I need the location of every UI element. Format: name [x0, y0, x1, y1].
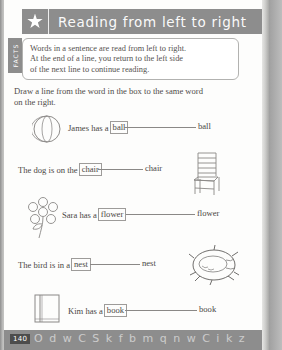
page-edge-outer: [269, 0, 282, 350]
sentence-text: James has a: [68, 123, 109, 133]
fact-line: of the next line to continue reading.: [30, 65, 186, 75]
sentence-text: The bird is in a: [18, 260, 70, 270]
instruction-text: Draw a line from the word in the box to …: [14, 86, 252, 107]
exercise-sentence: Sara has a flower: [62, 208, 127, 221]
exercise-row: James has a ball ball: [0, 112, 258, 150]
exercise-row: The bird is in a nest nest: [0, 244, 258, 288]
chair-illustration: [186, 150, 228, 202]
connector-line[interactable]: [126, 214, 195, 215]
nest-illustration: [188, 244, 240, 290]
exercise-row: Kim has a book book: [0, 292, 258, 332]
target-word[interactable]: nest: [142, 258, 156, 268]
page-footer: 140 O d w C S k f b m q n w C i k z: [4, 330, 262, 350]
sentence-text: Sara has a: [62, 210, 97, 220]
page-header: Reading from left to right: [22, 9, 262, 34]
boxed-word[interactable]: book: [104, 304, 127, 317]
exercise-sentence: The bird is in a nest: [18, 258, 92, 271]
facts-tab-label: FACTS: [12, 39, 19, 73]
target-word[interactable]: book: [199, 304, 216, 314]
target-word[interactable]: ball: [198, 121, 211, 131]
facts-side-tab: FACTS: [8, 38, 22, 73]
target-word[interactable]: flower: [197, 208, 219, 218]
footer-decoration: O d w C S k f b m q n w C i k z: [34, 332, 246, 345]
fact-line: Words in a sentence are read from left t…: [30, 44, 186, 54]
sentence-text: The dog is on the: [18, 165, 78, 175]
book-illustration: [30, 292, 64, 330]
page-edge-shadow: [262, 0, 269, 350]
connector-line[interactable]: [125, 310, 197, 311]
connector-line[interactable]: [98, 169, 143, 170]
exercise-row: The dog is on the chair chair: [0, 152, 258, 196]
connector-line[interactable]: [90, 264, 140, 265]
fact-line: At the end of a line, you return to the …: [30, 54, 186, 64]
page-number: 140: [10, 334, 30, 344]
exercise-row: Sara has a flower flower: [0, 196, 258, 240]
instruction-line: on the right.: [14, 97, 252, 108]
boxed-word[interactable]: nest: [71, 258, 91, 271]
target-word[interactable]: chair: [145, 163, 162, 173]
star-icon: [22, 9, 48, 34]
page-title: Reading from left to right: [49, 14, 247, 30]
scanned-page-background: Reading from left to right FACTS Words i…: [0, 0, 282, 350]
instruction-line: Draw a line from the word in the box to …: [14, 86, 252, 97]
flower-illustration: [24, 196, 64, 244]
boxed-word[interactable]: flower: [98, 208, 126, 221]
sentence-text: Kim has a: [68, 306, 103, 316]
connector-line[interactable]: [124, 127, 196, 128]
exercise-sentence: James has a ball: [68, 121, 129, 134]
exercise-sentence: Kim has a book: [68, 304, 128, 317]
ball-illustration: [32, 114, 62, 148]
fact-box: Words in a sentence are read from left t…: [22, 38, 239, 80]
exercise-sentence: The dog is on the chair: [18, 163, 103, 176]
